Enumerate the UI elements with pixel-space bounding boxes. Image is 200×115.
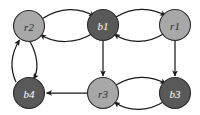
graph-node-r3[interactable]: r3 <box>88 78 119 109</box>
graph-edge-r2-to-b4 <box>30 42 37 80</box>
directed-graph-figure: r2b1r1b4r3b3 <box>0 0 200 115</box>
graph-node-r2[interactable]: r2 <box>14 11 45 42</box>
node-circle-r2[interactable] <box>14 11 45 42</box>
graph-node-b1[interactable]: b1 <box>88 10 119 41</box>
node-circle-r3[interactable] <box>88 78 119 109</box>
graph-edge-b3-to-r3 <box>115 102 165 110</box>
graph-node-b4[interactable]: b4 <box>14 78 45 109</box>
node-circle-r1[interactable] <box>160 10 191 41</box>
graph-edge-b4-to-r2 <box>12 40 20 82</box>
node-circle-b4[interactable] <box>14 78 45 109</box>
node-circle-b3[interactable] <box>160 78 191 109</box>
node-circle-b1[interactable] <box>88 10 119 41</box>
graph-node-r1[interactable]: r1 <box>160 10 191 41</box>
graph-node-b3[interactable]: b3 <box>160 78 191 109</box>
graph-edge-r3-to-b3 <box>116 77 166 85</box>
graph-edge-r2-to-b1 <box>43 10 95 19</box>
graph-edge-r1-to-b1 <box>115 34 165 42</box>
graph-edge-b1-to-r2 <box>41 34 93 42</box>
graph-canvas: r2b1r1b4r3b3 <box>0 0 200 115</box>
node-layer: r2b1r1b4r3b3 <box>14 10 191 109</box>
graph-edge-b1-to-r1 <box>116 9 166 17</box>
